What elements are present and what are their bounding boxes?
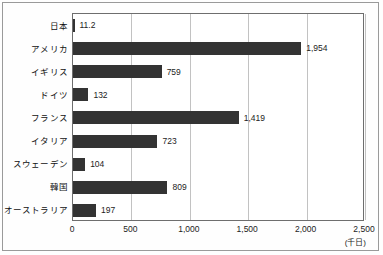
bar-chart-figure: 日本アメリカイギリスドイツフランスイタリアスウェーデン韓国オーストラリア 11.… (0, 0, 383, 255)
bar-value-label: 1,954 (306, 44, 327, 53)
x-axis-tick-labels: 05001,0001,5002,0002,500 (72, 224, 364, 238)
plot-area: 11.21,9547591321,419723104809197 (72, 13, 364, 221)
bar-row: 809 (73, 176, 187, 199)
bar (73, 204, 96, 217)
bar (73, 158, 85, 171)
bar (73, 42, 301, 55)
bar-row: 723 (73, 130, 177, 153)
bar-value-label: 723 (162, 137, 176, 146)
category-label: アメリカ (31, 36, 68, 59)
bar-series: 11.21,9547591321,419723104809197 (73, 14, 363, 220)
bar-row: 197 (73, 199, 115, 222)
bar-row: 1,419 (73, 106, 265, 129)
category-label: イタリア (31, 129, 68, 152)
category-axis-labels: 日本アメリカイギリスドイツフランスイタリアスウェーデン韓国オーストラリア (0, 13, 68, 221)
x-tick-label: 500 (123, 224, 137, 234)
bar (73, 65, 162, 78)
x-tick-label: 0 (70, 224, 75, 234)
bar-row: 11.2 (73, 14, 95, 37)
bar-value-label: 11.2 (80, 21, 96, 30)
bar-row: 104 (73, 153, 104, 176)
bar-value-label: 104 (90, 160, 104, 169)
category-label: ドイツ (40, 82, 68, 105)
category-label: イギリス (31, 59, 68, 82)
bar-row: 1,954 (73, 37, 328, 60)
bar-value-label: 1,419 (244, 114, 265, 123)
bar-row: 759 (73, 60, 181, 83)
bar-value-label: 759 (167, 68, 181, 77)
bar (73, 111, 239, 124)
category-label: フランス (31, 105, 68, 128)
bar-value-label: 132 (93, 91, 107, 100)
gridline (365, 14, 366, 220)
x-tick-label: 2,000 (295, 224, 316, 234)
bar-value-label: 197 (101, 206, 115, 215)
bar-value-label: 809 (172, 183, 186, 192)
bar (73, 88, 88, 101)
bar (73, 135, 157, 148)
axis-unit-label: (千日) (345, 236, 366, 247)
category-label: オーストラリア (4, 198, 68, 221)
x-tick-label: 1,000 (178, 224, 199, 234)
bar-row: 132 (73, 83, 108, 106)
category-label: スウェーデン (13, 152, 68, 175)
category-label: 日本 (50, 13, 68, 36)
category-label: 韓国 (50, 175, 68, 198)
bar (73, 181, 167, 194)
bar (73, 19, 75, 32)
x-tick-label: 2,500 (353, 224, 374, 234)
x-tick-label: 1,500 (237, 224, 258, 234)
